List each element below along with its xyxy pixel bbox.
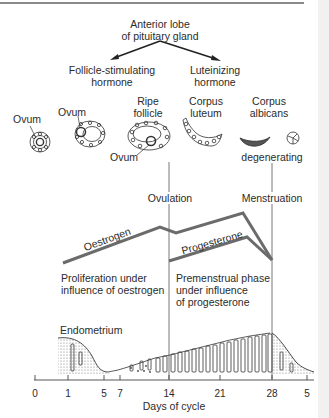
days-axis <box>34 375 314 380</box>
corpus-albicans-label: Corpus albicans <box>247 95 291 119</box>
menstruation-label: Menstruation <box>238 192 306 204</box>
pituitary-label: Anterior lobe of pituitary gland <box>125 18 195 42</box>
endometrium-illustration <box>58 333 314 375</box>
ovum-label-3: Ovum <box>109 151 139 163</box>
primary-follicle-icon <box>30 132 50 152</box>
ripe-follicle-label: Ripe follicle <box>128 95 168 119</box>
corpus-luteum-label: Corpus luteum <box>186 95 226 119</box>
endometrium-label: Endometrium <box>60 324 122 336</box>
tick-label-1: 1 <box>65 388 71 399</box>
tick-label-5-next: 5 <box>304 388 310 399</box>
arrow-head-left-icon <box>110 54 119 60</box>
ovum-label-2: Ovum <box>57 106 87 118</box>
tick-label-14: 14 <box>163 388 174 399</box>
corpus-albicans-icon <box>240 137 270 146</box>
cycle-diagram <box>0 0 329 418</box>
degenerating-label: degenerating <box>238 151 306 163</box>
arrow-head-right-icon <box>211 55 221 61</box>
tick-label-5: 5 <box>101 388 107 399</box>
lh-label: Luteinizing hormone <box>180 64 250 88</box>
axis-title: Days of cycle <box>134 400 214 412</box>
tick-label-28: 28 <box>266 388 277 399</box>
corpus-luteum-icon <box>183 118 222 146</box>
tick-label-21: 21 <box>214 388 225 399</box>
premenstrual-label: Premenstrual phase under influence of pr… <box>176 272 270 308</box>
pituitary-arrows <box>114 41 216 59</box>
ripe-follicle-icon <box>128 121 170 150</box>
ovulation-label: Ovulation <box>145 192 195 204</box>
tick-label-7: 7 <box>117 388 123 399</box>
ovum-label-1: Ovum <box>12 113 42 125</box>
fsh-label: Follicle-stimulating hormone <box>62 64 162 88</box>
proliferation-label: Proliferation under influence of oestrog… <box>61 272 164 296</box>
degenerated-body-icon <box>287 132 299 144</box>
tick-label-0: 0 <box>32 388 38 399</box>
